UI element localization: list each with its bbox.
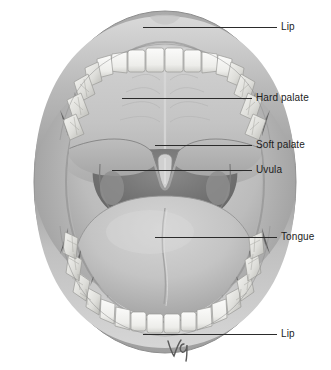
mouth-illustration (0, 0, 331, 370)
label-lip-upper: Lip (281, 21, 295, 33)
label-hard-palate: Hard palate (256, 92, 309, 104)
tonsil-right (206, 171, 230, 205)
leader-line-uvula (112, 170, 252, 171)
label-soft-palate: Soft palate (256, 139, 305, 151)
tooth-upper (128, 50, 145, 72)
tooth-lower (164, 314, 180, 333)
tooth-lower (131, 312, 146, 331)
label-tongue: Tongue (281, 231, 314, 243)
leader-line-tongue (155, 237, 277, 238)
tongue-sheen (106, 210, 194, 254)
label-uvula: Uvula (256, 164, 282, 176)
tooth-lower (181, 312, 196, 331)
tonsil-left (100, 171, 124, 205)
tooth-lower (197, 307, 212, 330)
label-lip-lower: Lip (281, 328, 295, 340)
tooth-lower (115, 307, 130, 330)
tooth-upper (146, 48, 164, 72)
tooth-upper (165, 48, 183, 72)
tooth-lower (147, 314, 163, 333)
leader-line-hard-palate (122, 98, 252, 99)
tooth-upper (184, 50, 201, 72)
leader-line-lip-lower (143, 334, 277, 335)
leader-line-soft-palate (155, 145, 252, 146)
anatomy-figure: Lip Hard palate Soft palate Uvula Tongue… (0, 0, 331, 370)
leader-line-lip-upper (143, 27, 277, 28)
